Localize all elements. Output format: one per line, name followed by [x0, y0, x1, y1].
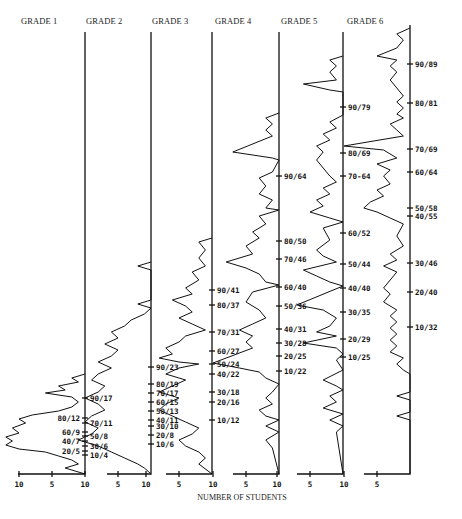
- x-tick-label-5: 5: [375, 480, 380, 489]
- percentile-label: 20/25: [284, 352, 307, 361]
- percentile-label: 40/22: [217, 370, 240, 379]
- percentile-label: 70/31: [217, 328, 240, 337]
- x-tick-label-5: 5: [308, 480, 313, 489]
- frequency-polygon: [6, 374, 85, 474]
- x-tick-label-10: 10: [272, 480, 282, 489]
- percentile-label: 80/81: [415, 99, 438, 108]
- percentile-label: 40/40: [348, 284, 371, 293]
- grade-title-1: GRADE 1: [21, 16, 57, 26]
- x-tick-label-10: 10: [208, 480, 218, 489]
- grade-title-3: GRADE 3: [152, 16, 188, 26]
- x-axis-label: NUMBER OF STUDENTS: [197, 493, 286, 502]
- percentile-label: 90/23: [156, 363, 179, 372]
- frequency-polygon: [297, 56, 343, 474]
- x-tick-label-5: 5: [244, 480, 249, 489]
- percentile-label: 20/29: [348, 335, 371, 344]
- percentile-label: 10/12: [217, 416, 240, 425]
- panel-grade-6: 51090/8980/8170/6960/6450/5840/5530/4620…: [339, 25, 438, 489]
- percentile-label: 80/50: [284, 237, 307, 246]
- percentile-label: 80/37: [217, 301, 240, 310]
- grade-title-2: GRADE 2: [86, 16, 122, 26]
- percentile-label: 60/64: [415, 168, 438, 177]
- percentile-label: 20/16: [217, 398, 240, 407]
- x-tick-label-5: 5: [50, 480, 55, 489]
- percentile-label: 70/11: [90, 419, 113, 428]
- percentile-label: 10/4: [90, 451, 109, 460]
- percentile-label: 30/18: [217, 388, 240, 397]
- percentile-label: 10/25: [348, 353, 371, 362]
- percentile-label: 90/89: [415, 60, 438, 69]
- percentile-label: 10/6: [156, 440, 175, 449]
- x-tick-label-10: 10: [14, 480, 24, 489]
- x-tick-label-10: 10: [339, 480, 349, 489]
- grade-title-5: GRADE 5: [281, 16, 317, 26]
- percentile-label: 30/35: [348, 308, 371, 317]
- grade-title-6: GRADE 6: [347, 16, 383, 26]
- panel-grade-1: 51090/1780/1270/1160/950/840/730/620/510…: [6, 32, 113, 489]
- percentile-label: 10/22: [284, 367, 307, 376]
- grade-distribution-chart: GRADE 1 GRADE 2 GRADE 3 GRADE 4 GRADE 5 …: [0, 0, 462, 519]
- percentile-label: 70-64: [348, 172, 371, 181]
- percentile-label: 20/5: [62, 447, 80, 456]
- percentile-label: 80/12: [57, 414, 80, 423]
- percentile-label: 60/9: [62, 428, 81, 437]
- percentile-label: 50/13: [156, 407, 179, 416]
- x-tick-label-5: 5: [177, 480, 182, 489]
- frequency-polygon: [344, 28, 410, 474]
- percentile-label: 60/52: [348, 229, 371, 238]
- x-tick-label-10: 10: [80, 480, 90, 489]
- axis-line: [18, 32, 85, 474]
- percentile-label: 30/46: [415, 259, 438, 268]
- percentile-label: 40/31: [284, 325, 307, 334]
- x-tick-label-5: 5: [116, 480, 121, 489]
- percentile-label: 20/8: [156, 431, 175, 440]
- percentile-label: 90/41: [217, 286, 240, 295]
- percentile-label: 10/32: [415, 323, 438, 332]
- percentile-label: 70/46: [284, 255, 307, 264]
- percentile-label: 60/40: [284, 283, 307, 292]
- grade-titles: GRADE 1 GRADE 2 GRADE 3 GRADE 4 GRADE 5 …: [21, 16, 383, 26]
- percentile-label: 30/10: [156, 422, 179, 431]
- x-tick-label-10: 10: [141, 480, 151, 489]
- percentile-label: 70/69: [415, 145, 438, 154]
- percentile-label: 80/69: [348, 149, 371, 158]
- axis-line: [233, 32, 279, 474]
- percentile-label: 90/79: [348, 103, 371, 112]
- percentile-label: 40/55: [415, 212, 438, 221]
- axis-line: [107, 32, 151, 474]
- percentile-label: 50/44: [348, 260, 371, 269]
- grade-title-4: GRADE 4: [215, 16, 252, 26]
- grade-panels: 51090/1780/1270/1160/950/840/730/620/510…: [6, 25, 438, 489]
- percentile-label: 20/40: [415, 288, 438, 297]
- percentile-label: 90/64: [284, 172, 307, 181]
- percentile-label: 40/7: [62, 437, 80, 446]
- axis-line: [364, 25, 410, 474]
